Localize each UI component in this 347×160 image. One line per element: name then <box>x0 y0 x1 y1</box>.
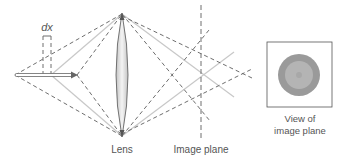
lens-label: Lens <box>111 144 133 155</box>
view-label-line2: image plane <box>274 125 326 136</box>
dx-label: dx <box>41 21 53 33</box>
lens <box>116 13 128 137</box>
optics-diagram: dx Lens Image plane View of image plane <box>0 0 347 160</box>
image-plane-view <box>267 42 332 107</box>
image-plane-label: Image plane <box>173 144 228 155</box>
object-arrow <box>15 72 78 79</box>
view-label-line1: View of <box>285 113 316 124</box>
